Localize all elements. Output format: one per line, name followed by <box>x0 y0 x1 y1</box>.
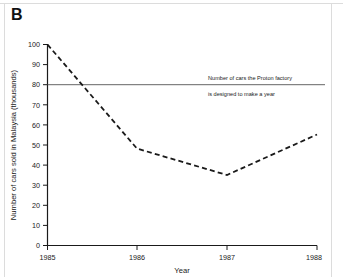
y-tick-label: 20 <box>32 201 40 210</box>
y-axis-title: Number of cars sold in Malaysia (thousan… <box>9 69 18 220</box>
capacity-annotation-line1: Number of cars the Proton factory <box>208 75 292 81</box>
y-axis-ticks <box>43 45 48 246</box>
y-tick-label: 40 <box>32 161 40 170</box>
chart-screenshot: B 0 10 <box>0 0 343 277</box>
y-tick-label: 90 <box>32 60 40 69</box>
x-tick-label: 1988 <box>306 253 322 262</box>
y-tick-label: 50 <box>32 141 40 150</box>
capacity-annotation-line2: is designed to make a year <box>208 91 275 97</box>
x-axis-title: Year <box>174 266 190 275</box>
x-axis-tick-labels: 1985 1986 1987 1988 <box>40 253 323 262</box>
line-chart: 0 10 20 30 40 50 60 70 80 90 100 <box>0 0 343 277</box>
y-tick-label: 10 <box>32 221 40 230</box>
x-tick-label: 1987 <box>219 253 235 262</box>
y-tick-label: 30 <box>32 181 40 190</box>
cars-sold-series-line <box>48 45 318 176</box>
y-tick-label: 70 <box>32 101 40 110</box>
x-tick-label: 1986 <box>129 253 145 262</box>
y-tick-label: 0 <box>36 241 40 250</box>
y-tick-label: 60 <box>32 121 40 130</box>
x-axis-ticks <box>48 246 318 251</box>
y-tick-label: 80 <box>32 80 40 89</box>
y-tick-label: 100 <box>28 40 40 49</box>
x-tick-label: 1985 <box>40 253 56 262</box>
y-axis-tick-labels: 0 10 20 30 40 50 60 70 80 90 100 <box>28 40 40 250</box>
